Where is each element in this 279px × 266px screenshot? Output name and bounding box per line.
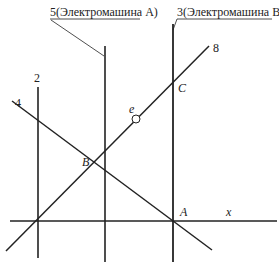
label-point-c: C bbox=[178, 81, 187, 95]
line-4 bbox=[12, 101, 212, 250]
label-line-2: 2 bbox=[34, 71, 40, 85]
label-point-e: e bbox=[129, 102, 135, 116]
label-point-b: B bbox=[82, 155, 90, 169]
label-machine-a: 5(Электромашина A) bbox=[50, 5, 158, 19]
label-line-4: 4 bbox=[15, 96, 21, 110]
label-line-8: 8 bbox=[213, 41, 219, 55]
geometry-diagram: 5(Электромашина A) 3(Электромашина B) 2 … bbox=[0, 0, 279, 266]
label-machine-b: 3(Электромашина B) bbox=[177, 5, 279, 19]
label-axis-x: x bbox=[225, 205, 232, 219]
point-e-marker bbox=[132, 115, 140, 123]
leader-machine-a bbox=[51, 20, 104, 56]
diagram-canvas: 5(Электромашина A) 3(Электромашина B) 2 … bbox=[0, 0, 279, 266]
label-point-a: A bbox=[179, 205, 188, 219]
